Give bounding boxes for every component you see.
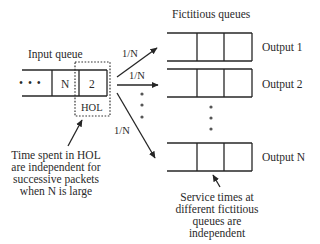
prob-label-1: 1/N — [122, 48, 138, 59]
output-2-label: Output 2 — [262, 78, 303, 91]
cell-n: N — [61, 78, 70, 90]
fictitious-queue-n: Output N — [167, 143, 306, 171]
fictitious-queue-2: Output 2 — [167, 69, 303, 97]
svg-text:when N is large: when N is large — [20, 185, 92, 198]
prob-label-n: 1/N — [114, 125, 130, 136]
service-note: Service times at different fictitious qu… — [175, 175, 259, 240]
prob-label-2: 1/N — [129, 70, 145, 81]
hol-note-pointer — [68, 120, 82, 146]
fictitious-queues-title: Fictitious queues — [172, 8, 251, 21]
hol-blocking-diagram: Fictitious queues Input queue • • • N 2 … — [0, 0, 320, 244]
cell-2: 2 — [89, 78, 95, 90]
output-n-label: Output N — [262, 151, 306, 164]
hol-label: HOL — [81, 102, 103, 113]
svg-text:different fictitious: different fictitious — [175, 203, 259, 215]
svg-text:independent: independent — [189, 227, 246, 240]
svg-text:Service times at: Service times at — [180, 191, 254, 203]
queue-ellipsis: • • • — [19, 77, 42, 89]
routing-arrows: 1/N 1/N 1/N — [114, 48, 158, 158]
service-note-pointer — [213, 175, 220, 187]
input-queue-title: Input queue — [28, 48, 83, 61]
fictitious-queue-1: Output 1 — [167, 33, 303, 61]
hol-note: Time spent in HOL are independent for su… — [11, 120, 101, 198]
output-1-label: Output 1 — [262, 41, 303, 54]
vertical-ellipsis — [209, 105, 212, 130]
input-queue: • • • N 2 HOL — [19, 62, 110, 116]
